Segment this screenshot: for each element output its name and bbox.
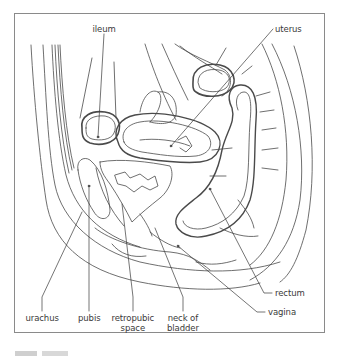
label-rectum: rectum	[275, 288, 305, 298]
uterus	[116, 114, 220, 163]
label-uterus: uterus	[275, 24, 302, 34]
label-vagina: vagina	[268, 307, 296, 317]
leader-uterus	[171, 29, 273, 146]
leader-ileum	[98, 34, 104, 137]
label-pubis: pubis	[78, 313, 100, 323]
sacrum	[250, 44, 312, 282]
label-urachus: urachus	[26, 313, 59, 323]
label-retropubic-space: retropubicspace	[112, 313, 155, 333]
leader-urachus	[42, 212, 82, 311]
bladder	[96, 160, 172, 236]
label-neck-of-bladder: neck ofbladder	[167, 313, 199, 333]
leader-rectum	[210, 189, 272, 293]
leader-neck-of-bladder	[155, 228, 183, 311]
label-ileum: ileum	[93, 24, 116, 34]
sigmoid-loops	[140, 44, 252, 124]
figure-caption-cropped	[14, 346, 94, 356]
rectum	[176, 85, 258, 237]
label-leaders	[42, 29, 273, 312]
